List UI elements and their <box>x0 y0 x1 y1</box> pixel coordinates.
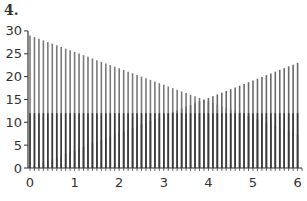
x-tick-label: 0 <box>26 175 34 190</box>
y-tick-label: 0 <box>14 161 22 176</box>
x-tick-label: 6 <box>293 175 301 190</box>
x-tick-label: 2 <box>115 175 123 190</box>
x-tick-label: 5 <box>249 175 257 190</box>
x-tick-label: 1 <box>70 175 78 190</box>
y-tick-label: 20 <box>5 69 22 84</box>
y-tick-label: 30 <box>5 23 22 38</box>
y-tick-label: 15 <box>5 92 22 107</box>
x-tick-label: 3 <box>160 175 168 190</box>
y-tick-label: 10 <box>5 115 22 130</box>
y-tick-label: 25 <box>5 46 22 61</box>
stem-chart: 0510152025300123456 <box>0 0 307 201</box>
stems <box>30 35 298 168</box>
y-tick-label: 5 <box>14 138 22 153</box>
x-tick-label: 4 <box>204 175 212 190</box>
